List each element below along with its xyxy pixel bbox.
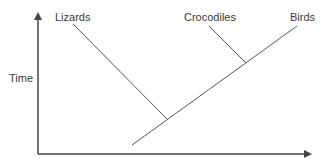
lizards-branch-line xyxy=(73,24,167,119)
crocodiles-branch-line xyxy=(209,26,246,63)
main-lineage-line xyxy=(132,26,297,145)
taxon-label-crocodiles: Crocodiles xyxy=(184,11,236,23)
taxon-label-birds: Birds xyxy=(290,11,315,23)
cladogram-diagram: Time Lizards Crocodiles Birds xyxy=(0,0,324,164)
cladogram-svg xyxy=(0,0,324,164)
taxon-label-lizards: Lizards xyxy=(55,11,90,23)
y-axis-label: Time xyxy=(9,72,33,84)
